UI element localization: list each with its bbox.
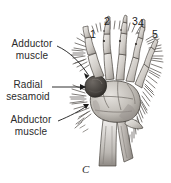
- label-adductor-muscle: Adductor muscle: [4, 38, 60, 61]
- digit-label-4: 4: [138, 18, 144, 29]
- digit-label-5: 5: [152, 29, 158, 40]
- label-adductor-muscle-line2: muscle: [4, 50, 60, 62]
- label-radial-sesamoid-line2: sesamoid: [4, 91, 52, 103]
- radial-sesamoid-bone: [85, 76, 107, 98]
- loose-fur-flecks: [78, 121, 88, 132]
- label-abductor-muscle-line2: muscle: [3, 126, 59, 138]
- label-radial-sesamoid-line1: Radial: [4, 79, 52, 91]
- digit-label-3: 3: [132, 16, 138, 27]
- label-abductor-muscle: Abductor muscle: [3, 114, 59, 137]
- digit-label-1: 1: [90, 29, 96, 40]
- leader-line-adductor: [57, 46, 89, 76]
- forearm-bones: [99, 118, 143, 166]
- digit-label-2: 2: [104, 16, 110, 27]
- label-adductor-muscle-line1: Adductor: [4, 38, 60, 50]
- label-radial-sesamoid: Radial sesamoid: [4, 79, 52, 102]
- arrowhead-adductor: [84, 73, 89, 79]
- panel-letter: C: [82, 163, 89, 175]
- anatomical-figure-panel-c: Adductor muscle Radial sesamoid Abductor…: [0, 0, 171, 183]
- label-abductor-muscle-line1: Abductor: [3, 114, 59, 126]
